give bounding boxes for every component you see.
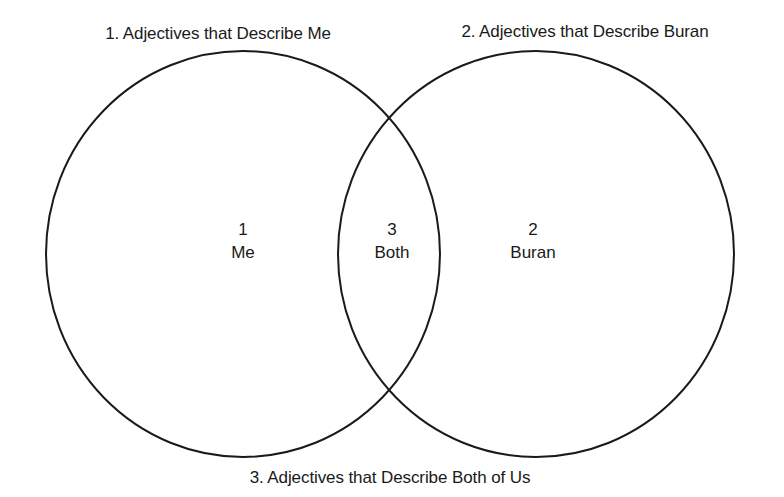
region-both-label: Both (375, 241, 410, 264)
title-set-me: 1. Adjectives that Describe Me (105, 24, 331, 44)
title-set-buran: 2. Adjectives that Describe Buran (461, 22, 708, 42)
region-both: 3 Both (375, 218, 410, 264)
region-both-number: 3 (375, 218, 410, 241)
region-buran: 2 Buran (510, 218, 555, 264)
region-buran-number: 2 (510, 218, 555, 241)
region-me-number: 1 (231, 218, 255, 241)
region-me: 1 Me (231, 218, 255, 264)
region-buran-label: Buran (510, 241, 555, 264)
title-intersection: 3. Adjectives that Describe Both of Us (250, 468, 531, 488)
region-me-label: Me (231, 241, 255, 264)
